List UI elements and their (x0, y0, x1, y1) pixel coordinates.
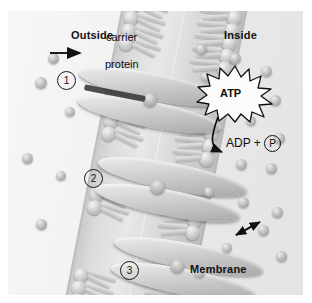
step-marker-1: 1 (57, 71, 76, 90)
label-carrier: carrier (106, 31, 137, 43)
arrow-layer (8, 11, 303, 295)
phosphate-badge: P (264, 135, 281, 152)
label-atp: ATP (220, 87, 241, 99)
label-inside: Inside (224, 29, 257, 41)
arrow-up-right-icon (236, 222, 260, 235)
membrane-transport-diagram: Outside Inside carrier protein Membrane … (8, 11, 303, 295)
label-membrane: Membrane (190, 263, 247, 275)
label-adp-products: ADP + P (226, 135, 281, 152)
step-marker-2: 2 (84, 169, 103, 188)
step-marker-3: 3 (120, 261, 139, 280)
label-protein: protein (105, 58, 139, 70)
diagram-canvas: Outside Inside carrier protein Membrane … (0, 0, 312, 303)
adp-text: ADP + (226, 136, 264, 150)
